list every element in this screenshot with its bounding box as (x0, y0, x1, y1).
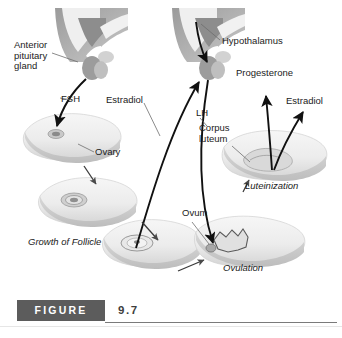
label-fsh: FSH (61, 94, 80, 105)
label-growth-of-follicle: Growth of Follicle (28, 237, 101, 248)
label-ovary: Ovary (95, 147, 120, 158)
label-anterior-pituitary-gland: Anterior pituitary gland (14, 40, 47, 72)
diagram-artwork (0, 0, 342, 292)
caption-rule (105, 322, 337, 323)
released-ovum (206, 244, 216, 252)
label-estradiol-left: Estradiol (106, 95, 143, 106)
brain-sagittal-left (55, 8, 128, 80)
ovary-mature-follicle (102, 220, 201, 269)
lh-arrow (201, 80, 213, 243)
label-estradiol-right: Estradiol (286, 96, 323, 107)
leader-estradiol-left (144, 103, 160, 136)
ovary-growing-follicle (38, 178, 137, 227)
ovarian-cycle-diagram: Anterior pituitary gland FSH Ovary Growt… (0, 0, 342, 292)
label-ovulation: Ovulation (223, 263, 263, 274)
ruptured-follicle (214, 229, 248, 252)
label-progesterone: Progesterone (236, 68, 293, 79)
label-corpus-luteum: Corpus luteum (199, 123, 230, 144)
ovary-corpus-luteum (222, 131, 327, 181)
caption-top-divider (0, 326, 342, 327)
label-ovum: Ovum (182, 208, 207, 219)
figure-number: 9.7 (118, 300, 139, 321)
figure-label-box: FIGURE (17, 300, 105, 321)
label-hypothalamus: Hypothalamus (222, 36, 283, 47)
figure-caption-bar: FIGURE 9.7 (0, 292, 342, 338)
label-luteinization: Luteinization (245, 181, 298, 192)
figure-9-7: Anterior pituitary gland FSH Ovary Growt… (0, 0, 342, 338)
ovary-ovulating (194, 216, 304, 267)
label-lh: LH (196, 108, 208, 119)
